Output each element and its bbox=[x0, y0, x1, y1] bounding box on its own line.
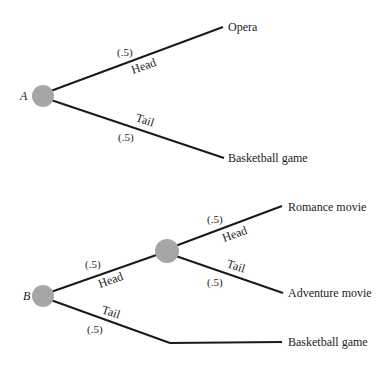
chance-node-b-sub bbox=[155, 239, 179, 263]
edge-a-head bbox=[48, 27, 223, 92]
outcome-b-romance: Romance movie bbox=[288, 200, 366, 214]
edge-label-b-sub-tail: Tail bbox=[225, 257, 248, 276]
outcome-b-basketball: Basketball game bbox=[288, 335, 368, 349]
prob-a-head: (.5) bbox=[117, 46, 133, 59]
edge-label-a-tail: Tail bbox=[134, 111, 157, 130]
edge-label-a-head: Head bbox=[129, 55, 158, 77]
edge-b-sub-tail bbox=[170, 254, 283, 293]
prob-b-sub-head: (.5) bbox=[207, 213, 223, 226]
outcome-a-basketball: Basketball game bbox=[228, 151, 308, 165]
edge-a-tail bbox=[48, 99, 224, 158]
node-label-b: B bbox=[23, 289, 31, 303]
tree-b: B (.5) Head Tail (.5) (.5) Head Tail (.5… bbox=[23, 200, 372, 349]
chance-node-b bbox=[32, 285, 54, 307]
outcome-b-adventure: Adventure movie bbox=[288, 286, 372, 300]
edge-label-b-sub-head: Head bbox=[220, 223, 249, 245]
edge-label-b-head: Head bbox=[96, 269, 125, 291]
prob-b-head: (.5) bbox=[85, 258, 101, 271]
tree-a: A (.5) Head Tail (.5) Opera Basketball g… bbox=[19, 20, 308, 165]
node-label-a: A bbox=[19, 89, 28, 103]
chance-node-a bbox=[32, 85, 54, 107]
prob-b-sub-tail: (.5) bbox=[207, 276, 223, 289]
outcome-a-opera: Opera bbox=[228, 20, 258, 34]
prob-a-tail: (.5) bbox=[118, 131, 134, 144]
decision-tree-diagram: A (.5) Head Tail (.5) Opera Basketball g… bbox=[0, 0, 390, 366]
edge-b-tail-flat bbox=[170, 342, 282, 343]
prob-b-tail: (.5) bbox=[87, 323, 103, 336]
